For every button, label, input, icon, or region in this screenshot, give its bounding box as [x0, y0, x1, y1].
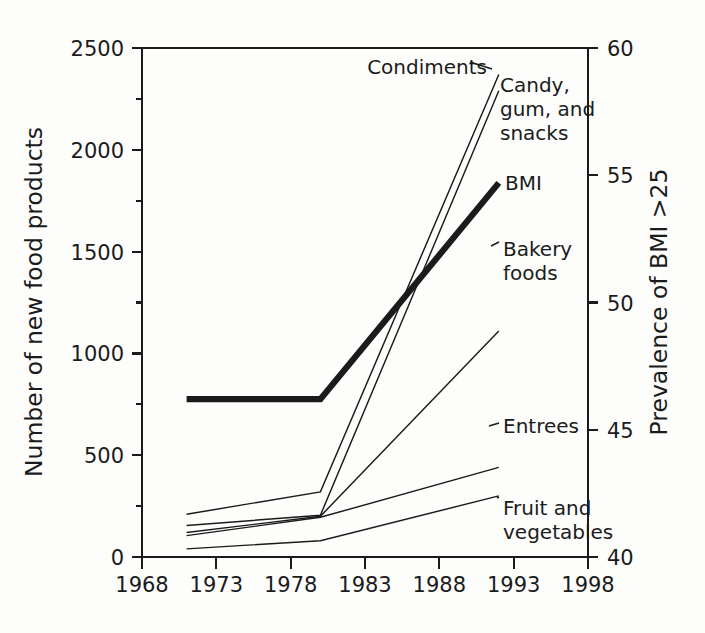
series-path-candy-gum-and-snacks — [187, 91, 499, 526]
series-path-bakery-foods — [187, 331, 499, 533]
y-right-ticks — [588, 48, 598, 557]
y-right-tick-labels: 60 55 50 45 40 — [607, 37, 634, 570]
y-axis-title-left: Number of new food products — [20, 127, 48, 477]
leader-fruit — [497, 497, 499, 498]
x-axis-tick-labels: 1968 1973 1978 1983 1988 1993 1998 — [115, 573, 614, 597]
series-label-entrees: Entrees — [503, 414, 579, 438]
y-left-label-500: 500 — [84, 444, 124, 468]
series-label-bakery-line1: Bakery — [503, 237, 572, 261]
x-label-1978: 1978 — [264, 573, 317, 597]
x-label-1988: 1988 — [413, 573, 466, 597]
y-right-label-60: 60 — [607, 37, 634, 61]
x-axis-ticks — [142, 557, 588, 569]
y-left-tick-labels: 2500 2000 1500 1000 500 0 — [71, 37, 124, 570]
x-label-1993: 1993 — [487, 573, 540, 597]
x-label-1973: 1973 — [190, 573, 243, 597]
series-path-bmi — [187, 183, 499, 399]
series-label-bakery-line2: foods — [503, 261, 558, 285]
x-label-1998: 1998 — [561, 573, 614, 597]
y-left-label-0: 0 — [111, 546, 124, 570]
series-label-leaders — [470, 62, 499, 498]
series-label-candy-line2: gum, and — [500, 97, 595, 121]
x-label-1968: 1968 — [115, 573, 168, 597]
y-left-label-2000: 2000 — [71, 139, 124, 163]
series-label-condiments: Condiments — [367, 55, 487, 79]
leader-bakery — [491, 242, 499, 246]
series-path-entrees — [187, 467, 499, 535]
series-layer — [187, 74, 499, 548]
line-chart-canvas: 2500 2000 1500 1000 500 0 60 55 50 45 40 — [0, 0, 705, 633]
y-right-label-40: 40 — [607, 546, 634, 570]
series-path-condiments — [187, 74, 499, 514]
y-left-label-1000: 1000 — [71, 342, 124, 366]
y-left-label-2500: 2500 — [71, 37, 124, 61]
y-left-ticks — [132, 48, 142, 557]
x-label-1983: 1983 — [338, 573, 391, 597]
y-right-label-55: 55 — [607, 164, 634, 188]
y-right-label-50: 50 — [607, 292, 634, 316]
series-label-candy-line1: Candy, — [500, 73, 570, 97]
y-right-label-45: 45 — [607, 419, 634, 443]
y-left-label-1500: 1500 — [71, 241, 124, 265]
series-label-fruit-line2: vegetables — [503, 520, 613, 544]
series-label-bmi: BMI — [505, 171, 542, 195]
series-label-fruit-line1: Fruit and — [503, 496, 591, 520]
chart-figure: 2500 2000 1500 1000 500 0 60 55 50 45 40 — [0, 0, 705, 633]
series-label-candy-line3: snacks — [500, 121, 568, 145]
leader-entrees — [489, 423, 499, 426]
y-axis-title-right: Prevalence of BMI >25 — [645, 169, 673, 436]
